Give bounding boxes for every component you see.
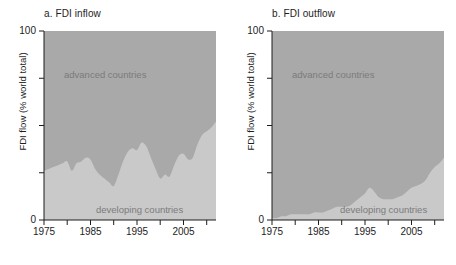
panel-fdi-outflow: b. FDI outflow FDI flow (% world total) … [228, 0, 456, 265]
y-tick-label-100-inflow: 100 [6, 25, 36, 36]
panel-title-inflow: a. FDI inflow [44, 8, 101, 19]
area-label-developing-inflow: developing countries [96, 204, 183, 215]
plot-area-outflow [272, 31, 444, 220]
x-tick-label-1995-outflow: 1995 [345, 226, 385, 237]
panel-title-outflow: b. FDI outflow [272, 8, 335, 19]
plot-area-inflow [44, 31, 216, 220]
x-tick-label-1985-outflow: 1985 [299, 226, 339, 237]
y-axis-label-outflow: FDI flow (% world total) [245, 22, 256, 182]
area-label-advanced-outflow: advanced countries [292, 69, 374, 80]
panel-fdi-inflow: a. FDI inflow FDI flow (% world total) 1… [0, 0, 228, 265]
y-axis-label-inflow: FDI flow (% world total) [17, 22, 28, 182]
y-tick-label-0-outflow: 0 [234, 214, 264, 225]
y-tick-label-0-inflow: 0 [6, 214, 36, 225]
area-label-advanced-inflow: advanced countries [64, 69, 146, 80]
x-tick-label-1975-outflow: 1975 [252, 226, 292, 237]
x-tick-label-2005-outflow: 2005 [392, 226, 432, 237]
area-chart-outflow [272, 31, 444, 220]
x-tick-label-2005-inflow: 2005 [164, 226, 204, 237]
figure-container: a. FDI inflow FDI flow (% world total) 1… [0, 0, 456, 265]
area-chart-inflow [44, 31, 216, 220]
x-tick-label-1985-inflow: 1985 [71, 226, 111, 237]
area-label-developing-outflow: developing countries [340, 204, 427, 215]
y-tick-label-100-outflow: 100 [234, 25, 264, 36]
x-tick-label-1995-inflow: 1995 [117, 226, 157, 237]
x-tick-label-1975-inflow: 1975 [24, 226, 64, 237]
